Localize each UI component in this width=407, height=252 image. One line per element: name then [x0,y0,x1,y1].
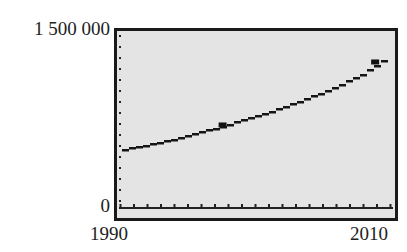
curve-segment [129,147,136,150]
x-axis-tick [120,204,122,207]
curve-segment [297,101,304,104]
curve-segment [374,65,381,68]
x-axis-line [119,207,393,209]
plot-area [0,0,407,252]
curve-segment [171,139,178,142]
curve-segment [206,129,213,132]
x-axis-tick [160,204,162,207]
curve-segment [185,135,192,138]
curve-segment [346,80,353,83]
y-axis-dot [119,189,121,191]
y-axis-dot [119,35,121,37]
x-axis-tick [282,204,284,207]
curve-segment [339,84,346,87]
y-axis-dot [119,57,121,59]
curve-segment [367,69,374,72]
curve-segment [325,90,332,93]
y-axis-dot [119,79,121,81]
curve-segment [332,87,339,90]
curve-segment [381,60,388,63]
curve-segment [311,95,318,98]
x-axis-tick [363,204,365,207]
curve-segment [136,146,143,149]
curve-segment [227,124,234,127]
x-axis-tick [390,204,392,207]
curve-segment [192,133,199,136]
curve-segment [353,77,360,80]
x-axis-tick [376,204,378,207]
y-axis-dot [119,123,121,125]
y-axis-dot [119,178,121,180]
x-axis-tick [336,204,338,207]
x-axis-tick [187,204,189,207]
x-axis-tick [228,204,230,207]
curve-segment [290,103,297,106]
y-axis-dot [119,68,121,70]
x-axis-tick [241,204,243,207]
y-axis-dot [119,134,121,136]
y-axis-dot [119,167,121,169]
y-axis-dot [119,145,121,147]
curve-segment [241,119,248,122]
curve-segment [150,143,157,146]
curve-segment [199,131,206,134]
y-axis-dot [119,101,121,103]
y-axis-dot [119,156,121,158]
x-axis-tick [201,204,203,207]
data-point-marker [219,122,227,127]
curve-segment [164,140,171,143]
curve-segment [122,149,129,152]
x-axis-tick [268,204,270,207]
curve-segment [318,93,325,96]
y-axis-dot [119,90,121,92]
x-axis-tick [174,204,176,207]
curve-segment [276,108,283,111]
y-axis-dot [119,46,121,48]
x-axis-tick [147,204,149,207]
curve-segment [157,142,164,145]
y-axis-dot [119,112,121,114]
x-axis-tick [349,204,351,207]
x-axis-tick [295,204,297,207]
curve-segment [262,113,269,116]
x-axis-tick [133,204,135,207]
curve-segment [283,106,290,109]
curve-segment [234,121,241,124]
curve-segment [178,137,185,140]
curve-segment [248,117,255,120]
y-axis-dot [119,200,121,202]
curve-segment [143,145,150,148]
curve-segment [269,111,276,114]
curve-segment [360,74,367,77]
curve-segment [255,115,262,118]
x-axis-tick [309,204,311,207]
x-axis-tick [214,204,216,207]
curve-segment [213,128,220,131]
x-axis-tick [255,204,257,207]
curve-segment [304,98,311,101]
data-point-marker [371,59,379,64]
x-axis-tick [322,204,324,207]
